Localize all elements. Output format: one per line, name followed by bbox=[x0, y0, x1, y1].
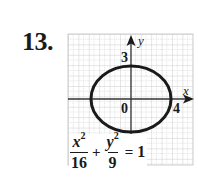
equation-rhs: 1 bbox=[137, 143, 145, 161]
equals-sign: = bbox=[125, 144, 134, 161]
x-intercept-label: 4 bbox=[173, 102, 180, 116]
x-variable: x bbox=[73, 134, 81, 151]
fraction-x-term: x2 16 bbox=[70, 133, 88, 170]
equation: x2 16 + y2 9 = 1 bbox=[69, 134, 147, 170]
plus-sign: + bbox=[92, 144, 101, 161]
origin-label: 0 bbox=[121, 102, 128, 116]
fraction-y-term: y2 9 bbox=[105, 133, 121, 170]
y-axis-label: y bbox=[138, 34, 144, 47]
y-exponent: 2 bbox=[114, 130, 119, 141]
y-denominator: 9 bbox=[108, 152, 118, 171]
y-variable: y bbox=[107, 134, 114, 151]
x-denominator: 16 bbox=[70, 152, 88, 171]
x-exponent: 2 bbox=[81, 130, 86, 141]
x-axis-label: x bbox=[183, 84, 189, 97]
y-intercept-label: 3 bbox=[121, 51, 128, 65]
